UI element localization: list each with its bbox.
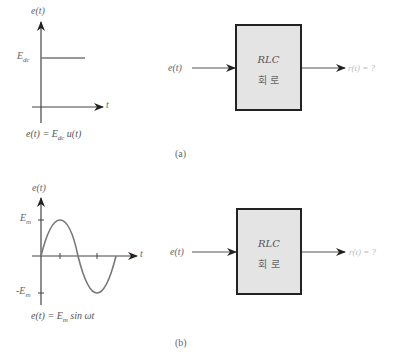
equation-a: e(t) = Edc u(t) (26, 128, 81, 142)
sine-plot (32, 198, 137, 305)
caption-a: (a) (175, 148, 186, 159)
edc-label: Edc (17, 50, 30, 64)
em-pos-label: Em (20, 212, 31, 226)
rlc-circuit-block-a: RLC 회 로 (235, 24, 302, 111)
block-title-a: RLC (237, 54, 300, 65)
equation-b: e(t) = Em sin ωt (31, 310, 94, 324)
step-plot (32, 22, 103, 123)
y-axis-label-b: e(t) (32, 182, 46, 193)
output-label-a: r(t) = ? (348, 63, 375, 73)
input-label-a: e(t) (168, 62, 182, 73)
block-subtitle-a: 회 로 (237, 72, 300, 87)
block-title-b: RLC (238, 238, 300, 249)
output-label-b: r(t) = ? (349, 247, 376, 257)
caption-b: (b) (175, 337, 187, 348)
x-axis-label-a: t (106, 99, 109, 110)
x-axis-label-b: t (140, 248, 143, 259)
input-label-b: e(t) (170, 246, 184, 257)
rlc-circuit-block-b: RLC 회 로 (236, 208, 302, 295)
em-neg-label: -Em (16, 285, 31, 299)
y-axis-label-a: e(t) (31, 5, 45, 16)
diagram-lines (0, 0, 393, 360)
block-subtitle-b: 회 로 (238, 256, 300, 271)
